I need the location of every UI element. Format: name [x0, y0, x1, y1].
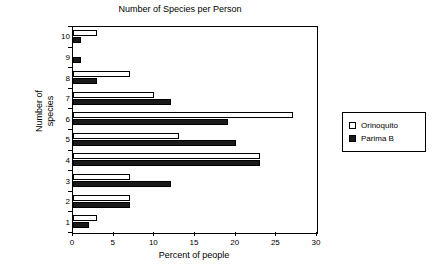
bar-orinoquito-cat-4: [73, 153, 260, 159]
bar-orinoquito-cat-3: [73, 174, 130, 180]
x-tick-mark: [153, 232, 154, 236]
bar-parima-b-cat-6: [73, 119, 228, 125]
bar-orinoquito-cat-2: [73, 195, 130, 201]
x-tick-mark: [72, 232, 73, 236]
plot-area: [73, 27, 317, 233]
bar-orinoquito-cat-6: [73, 112, 293, 118]
y-tick-label-2: 2: [60, 197, 70, 206]
y-tick-label-9: 9: [60, 52, 70, 61]
bar-parima-b-cat-1: [73, 222, 89, 228]
x-tick-mark: [194, 232, 195, 236]
bar-parima-b-cat-10: [73, 37, 81, 43]
bar-parima-b-cat-5: [73, 140, 236, 146]
y-tick-mark: [68, 170, 72, 171]
y-axis-title: Number of species: [34, 76, 56, 146]
legend-label: Parima B: [361, 134, 394, 143]
x-tick-label-25: 25: [271, 238, 280, 247]
bar-parima-b-cat-8: [73, 78, 97, 84]
plot-frame: [72, 26, 318, 234]
y-tick-mark: [68, 191, 72, 192]
y-tick-label-10: 10: [60, 32, 70, 41]
y-tick-label-3: 3: [60, 176, 70, 185]
y-tick-mark: [68, 67, 72, 68]
x-tick-mark: [275, 232, 276, 236]
y-tick-mark: [68, 211, 72, 212]
y-tick-mark: [68, 47, 72, 48]
x-axis-title: Percent of people: [72, 250, 316, 261]
y-tick-label-7: 7: [60, 94, 70, 103]
bar-orinoquito-cat-10: [73, 30, 97, 36]
y-tick-mark: [68, 150, 72, 151]
bar-orinoquito-cat-5: [73, 133, 179, 139]
bar-orinoquito-cat-8: [73, 71, 130, 77]
bar-parima-b-cat-3: [73, 181, 171, 187]
legend-item-orinoquito[interactable]: Orinoquito: [349, 119, 420, 132]
x-tick-label-30: 30: [312, 238, 321, 247]
y-tick-label-5: 5: [60, 135, 70, 144]
y-tick-label-8: 8: [60, 73, 70, 82]
bar-parima-b-cat-2: [73, 202, 130, 208]
y-tick-label-4: 4: [60, 155, 70, 164]
bar-parima-b-cat-9: [73, 57, 81, 63]
bar-parima-b-cat-7: [73, 99, 171, 105]
legend-item-parima-b[interactable]: Parima B: [349, 132, 420, 145]
swatch-hollow-icon: [349, 122, 356, 129]
x-tick-label-10: 10: [149, 238, 158, 247]
y-tick-label-6: 6: [60, 114, 70, 123]
bar-parima-b-cat-4: [73, 160, 260, 166]
y-tick-mark: [68, 108, 72, 109]
chart-container: Number of Species per Person Number of s…: [0, 0, 433, 278]
bar-orinoquito-cat-1: [73, 215, 97, 221]
chart-legend: OrinoquitoParima B: [342, 112, 426, 152]
x-tick-mark: [316, 232, 317, 236]
x-tick-mark: [113, 232, 114, 236]
x-tick-label-15: 15: [190, 238, 199, 247]
x-tick-label-5: 5: [110, 238, 114, 247]
x-tick-label-20: 20: [230, 238, 239, 247]
x-tick-mark: [235, 232, 236, 236]
y-tick-mark: [68, 26, 72, 27]
swatch-filled-icon: [349, 135, 356, 142]
bar-orinoquito-cat-7: [73, 92, 154, 98]
chart-title: Number of Species per Person: [0, 4, 360, 15]
y-tick-mark: [68, 129, 72, 130]
y-tick-mark: [68, 88, 72, 89]
x-tick-label-0: 0: [70, 238, 74, 247]
legend-label: Orinoquito: [361, 121, 398, 130]
y-tick-label-1: 1: [60, 217, 70, 226]
